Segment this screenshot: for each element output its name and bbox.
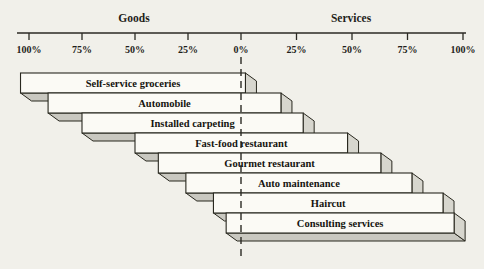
axis-label-services: Services [331,12,372,24]
bar-label-auto-maintenance: Auto maintenance [258,178,340,189]
bar-label-automobile: Automobile [138,98,191,109]
continuum-chart: Goods Services 100%75%50%25%0%25%50%75%1… [0,0,484,269]
bar-label-installed-carpeting: Installed carpeting [150,118,235,129]
axis-ticks: 100%75%50%25%0%25%50%75%100% [17,33,476,55]
axis-label-goods: Goods [118,12,150,24]
bar-bottom-face-consulting-services [226,233,465,241]
bar-label-self-service-groceries: Self-service groceries [86,78,181,89]
axis-tick-label: 75% [398,44,418,55]
bar-label-consulting-services: Consulting services [297,218,384,229]
axis-tick-label: 0% [234,44,249,55]
axis-tick-label: 50% [125,44,145,55]
bars [21,73,466,241]
bar-label-haircut: Haircut [311,198,346,209]
axis-tick-label: 25% [178,44,198,55]
goods-services-continuum-figure: Goods Services 100%75%50%25%0%25%50%75%1… [0,0,484,269]
axis-tick-label: 25% [287,44,307,55]
axis-tick-label: 75% [72,44,92,55]
axis-tick-label: 100% [451,44,476,55]
axis-tick-label: 100% [17,44,42,55]
axis-tick-label: 50% [342,44,362,55]
bar-label-fast-food-restaurant: Fast-food restaurant [195,138,288,149]
bar-label-gourmet-restaurant: Gourmet restaurant [224,158,315,169]
